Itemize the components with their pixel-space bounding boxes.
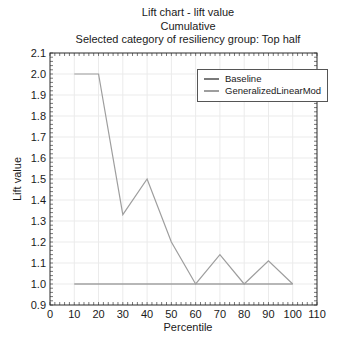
y-tick-label: 1.3 <box>31 215 46 227</box>
lift-chart: Lift chart - lift value Cumulative Selec… <box>0 0 349 346</box>
legend-label-generalizedlinearmod: GeneralizedLinearMod <box>225 85 321 97</box>
x-tick-label: 10 <box>68 308 80 320</box>
y-tick-label: 1.5 <box>31 173 46 185</box>
legend: Baseline GeneralizedLinearMod <box>197 69 328 102</box>
x-tick-label: 0 <box>47 308 53 320</box>
x-tick-label: 40 <box>141 308 153 320</box>
x-tick-label: 90 <box>262 308 274 320</box>
y-tick-label: 1.9 <box>31 89 46 101</box>
legend-item-baseline: Baseline <box>204 73 321 85</box>
x-tick-label: 20 <box>92 308 104 320</box>
y-tick-label: 1.1 <box>31 257 46 269</box>
x-tick-label: 100 <box>284 308 302 320</box>
legend-label-baseline: Baseline <box>225 73 261 85</box>
x-tick-label: 30 <box>117 308 129 320</box>
x-axis-title: Percentile <box>27 321 349 333</box>
y-tick-label: 1.4 <box>31 194 46 206</box>
y-tick-label: 0.9 <box>31 299 46 311</box>
y-tick-label: 1.0 <box>31 278 46 290</box>
x-tick-label: 60 <box>190 308 202 320</box>
x-tick-label: 50 <box>165 308 177 320</box>
y-tick-label: 1.7 <box>31 131 46 143</box>
x-tick-label: 70 <box>214 308 226 320</box>
y-tick-label: 2.0 <box>31 68 46 80</box>
y-tick-label: 1.2 <box>31 236 46 248</box>
generalizedlinearmod-line-swatch <box>204 90 219 92</box>
plot-area: 01020304050607080901001100.91.01.11.21.3… <box>0 0 349 346</box>
baseline-line-swatch <box>204 78 219 80</box>
y-tick-label: 1.6 <box>31 152 46 164</box>
x-tick-label: 110 <box>308 308 326 320</box>
y-tick-label: 2.1 <box>31 47 46 59</box>
y-tick-label: 1.8 <box>31 110 46 122</box>
legend-item-generalizedlinearmod: GeneralizedLinearMod <box>204 85 321 97</box>
x-tick-label: 80 <box>238 308 250 320</box>
